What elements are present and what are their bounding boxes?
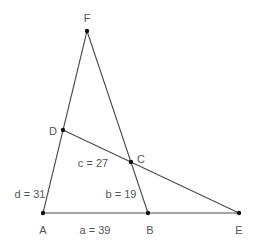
- point-b: [146, 211, 150, 215]
- point-d: [61, 128, 65, 132]
- point-label-e: E: [235, 224, 242, 236]
- point-label-d: D: [49, 125, 57, 137]
- point-c: [129, 160, 133, 164]
- segment-af: [43, 31, 87, 213]
- point-a: [41, 211, 45, 215]
- point-label-a: A: [39, 224, 47, 236]
- point-label-c: C: [137, 153, 145, 165]
- point-label-f: F: [84, 12, 91, 24]
- segment-de: [63, 130, 239, 213]
- point-e: [237, 211, 241, 215]
- segments: [43, 31, 239, 213]
- measurement-a: a = 39: [80, 224, 111, 236]
- point-label-b: B: [146, 224, 153, 236]
- measurement-c: c = 27: [78, 157, 108, 169]
- measurement-labels: a = 39b = 19c = 27d = 31: [15, 157, 137, 236]
- point-labels: FDCABE: [39, 12, 242, 236]
- measurement-d: d = 31: [15, 188, 46, 200]
- segment-fb: [87, 31, 148, 213]
- point-f: [85, 29, 89, 33]
- geometry-diagram: FDCABE a = 39b = 19c = 27d = 31: [0, 0, 253, 243]
- measurement-b: b = 19: [106, 188, 137, 200]
- points: [41, 29, 241, 215]
